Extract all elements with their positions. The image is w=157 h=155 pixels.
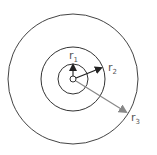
label-r2: r2	[108, 62, 117, 76]
label-r3-sub: 3	[136, 118, 140, 126]
label-r1-sub: 1	[74, 56, 78, 64]
label-r2-sub: 2	[113, 68, 117, 76]
label-r1: r1	[69, 50, 78, 64]
concentric-circles-diagram	[0, 0, 157, 155]
label-r3: r3	[131, 112, 140, 126]
center-point	[70, 76, 76, 82]
radius-r2-arrow	[76, 68, 101, 78]
radius-r3-arrow	[76, 81, 126, 112]
